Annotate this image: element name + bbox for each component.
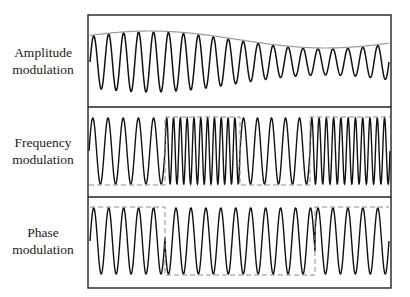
- am-panel: [90, 31, 389, 92]
- modulation-diagram: [0, 0, 410, 297]
- fm-panel: [89, 117, 390, 185]
- pm-panel: [90, 207, 389, 275]
